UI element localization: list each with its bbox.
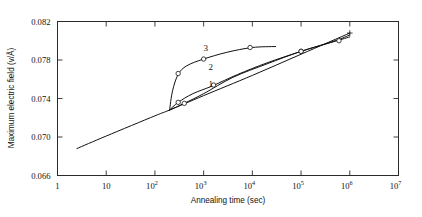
curve-label-1: 1 <box>209 79 214 89</box>
data-point-marker <box>182 101 186 105</box>
data-point-marker <box>201 57 205 61</box>
x-tick-label: 106 <box>341 179 353 191</box>
x-axis-tick-labels: 110102103104105106107 <box>55 179 401 191</box>
plot-frame <box>58 22 399 176</box>
curve-label-3: 3 <box>203 43 208 53</box>
x-tick-label: 102 <box>146 179 158 191</box>
y-tick-label: 0.074 <box>31 94 51 104</box>
data-point-marker <box>176 71 180 75</box>
annealing-time-chart: 123 110102103104105106107 0.0660.0700.07… <box>0 0 422 217</box>
x-tick-label: 104 <box>244 179 256 191</box>
x-tick-label: 103 <box>195 179 207 191</box>
x-axis-ticks <box>106 22 398 176</box>
y-tick-label: 0.066 <box>31 171 51 181</box>
figure-container: 123 110102103104105106107 0.0660.0700.07… <box>0 0 422 217</box>
y-axis-title: Maximum electric field (v/Å) <box>6 47 16 148</box>
y-axis-ticks <box>58 60 399 137</box>
data-point-marker <box>299 49 303 53</box>
curve-baseline <box>77 33 350 149</box>
x-tick-label: 1 <box>55 181 59 191</box>
curve-curve-3 <box>170 47 276 111</box>
y-tick-label: 0.070 <box>31 132 50 142</box>
y-axis-tick-labels: 0.0660.0700.0740.0780.082 <box>31 17 51 181</box>
data-point-marker <box>176 100 180 104</box>
x-tick-label: 105 <box>292 179 304 191</box>
curve-label-2: 2 <box>209 62 214 72</box>
curve-number-labels: 123 <box>203 43 213 89</box>
data-point-marker <box>248 45 252 49</box>
x-axis-title: Annealing time (sec) <box>191 196 266 205</box>
y-tick-label: 0.082 <box>31 17 50 27</box>
x-tick-label: 10 <box>102 181 111 191</box>
x-tick-label: 107 <box>390 179 402 191</box>
data-curves <box>77 33 350 149</box>
y-tick-label: 0.078 <box>31 55 50 65</box>
data-point-marker <box>337 39 341 43</box>
